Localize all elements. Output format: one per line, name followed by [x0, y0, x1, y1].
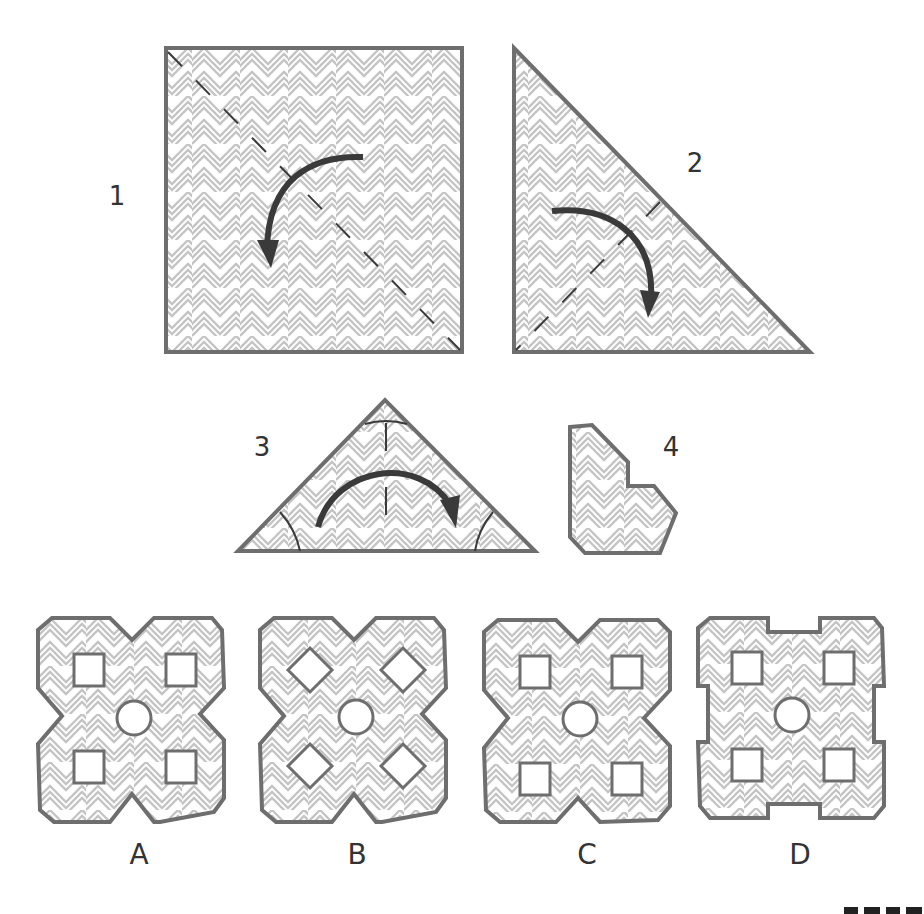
hole-square	[612, 763, 642, 795]
step-label-2: 2	[687, 150, 704, 176]
option-c-shape	[484, 620, 670, 822]
option-label-c[interactable]: C	[577, 841, 597, 869]
hole-square	[74, 751, 104, 783]
step-label-3: 3	[254, 434, 271, 460]
hole-circle	[563, 702, 597, 736]
hole-square	[612, 656, 642, 688]
step2-triangle	[514, 48, 810, 352]
step-label-4: 4	[663, 434, 680, 460]
option-label-a[interactable]: A	[129, 841, 148, 869]
hole-circle	[117, 701, 151, 735]
step-label-1: 1	[109, 183, 126, 209]
step4-piece	[570, 425, 676, 553]
hole-square	[166, 751, 196, 783]
watermark-fragment	[842, 900, 924, 914]
option-label-b[interactable]: B	[347, 841, 366, 869]
hole-square	[166, 654, 196, 686]
option-a-shape	[38, 618, 224, 822]
hole-square	[732, 749, 762, 781]
hole-circle	[339, 700, 373, 734]
hole-square	[520, 763, 550, 795]
option-label-d[interactable]: D	[789, 841, 811, 869]
step1-square	[166, 48, 462, 352]
hole-square	[732, 652, 762, 684]
puzzle-canvas	[0, 0, 924, 914]
hole-square	[520, 656, 550, 688]
hole-circle	[775, 698, 809, 732]
option-d-shape	[698, 618, 884, 818]
option-b-shape	[260, 618, 446, 822]
hole-square	[824, 652, 854, 684]
step3-triangle	[238, 400, 535, 551]
hole-square	[74, 654, 104, 686]
hole-square	[824, 749, 854, 781]
